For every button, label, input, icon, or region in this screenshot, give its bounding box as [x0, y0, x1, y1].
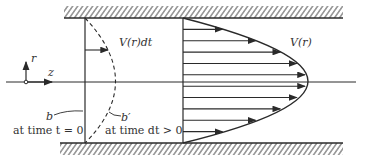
line-b-prime-leader — [109, 112, 121, 116]
axis-indicator: r z — [24, 52, 54, 84]
line-b-leader — [54, 111, 83, 115]
axis-z-label: z — [47, 66, 54, 79]
line-b-label: b — [46, 110, 53, 123]
displacement-label: V(r)dt — [119, 36, 153, 49]
line-b-prime-label: b′ — [121, 111, 131, 124]
pipe-flow-diagram: r z V(r)dt V(r) b at time t = 0 b′ at ti… — [0, 0, 374, 166]
top-wall — [64, 6, 343, 18]
bottom-wall — [60, 143, 343, 155]
axis-r-label: r — [31, 52, 37, 65]
velocity-profile-label: V(r) — [290, 36, 312, 49]
time-zero-label: at time t = 0 — [13, 124, 83, 137]
time-dt-label: at time dt > 0 — [105, 124, 183, 137]
velocity-arrows — [183, 29, 305, 131]
